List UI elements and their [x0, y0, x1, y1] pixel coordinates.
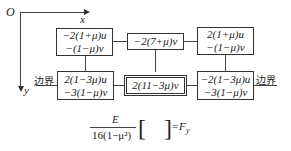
connector-center-vertical: [155, 49, 156, 72]
node-text-line: −(1−μ)v: [65, 42, 103, 55]
node-text-line: 2(1−3μ)u: [64, 73, 106, 86]
bracket-close: ]: [164, 115, 172, 141]
connector-left-vertical: [85, 55, 86, 72]
node-text-line: 2(11−3μ)v: [132, 79, 178, 92]
x-axis: [20, 12, 86, 13]
formula: E 16(1−μ²) [ ] = F y: [90, 113, 200, 149]
node-top-center: −2(7+μ)v: [127, 33, 184, 50]
node-top-right: 2(1+μ)u −(1−μ)v: [197, 27, 254, 55]
formula-result: F: [179, 120, 186, 132]
node-text-line: −(1−μ)v: [206, 41, 244, 54]
node-text-line: 2(1+μ)u: [207, 28, 244, 41]
origin-label: O: [6, 5, 15, 20]
node-top-left: −2(1+μ)u −(1−μ)v: [56, 28, 113, 56]
y-axis: [20, 12, 21, 88]
formula-numerator: E: [112, 113, 119, 125]
x-axis-label: x: [80, 13, 85, 25]
formula-denominator: 16(1−μ²): [92, 129, 131, 141]
formula-equals: =: [172, 120, 178, 132]
node-bottom-center-highlighted: 2(11−3μ)v: [124, 75, 187, 96]
y-axis-label: y: [24, 84, 29, 96]
node-bottom-right: −2(1−3μ)u −3(1−μ)v: [197, 71, 254, 100]
node-text-line: −2(1+μ)u: [62, 29, 106, 42]
node-text-line: −2(1−3μ)u: [201, 73, 251, 86]
node-text-line: −2(7+μ)v: [134, 35, 178, 48]
bracket-open: [: [138, 115, 146, 141]
boundary-label-left: 边界: [34, 73, 54, 88]
boundary-label-right: 边界: [256, 72, 276, 87]
node-bottom-left: 2(1−3μ)u −3(1−μ)v: [57, 71, 114, 100]
connector-right-vertical: [225, 55, 226, 72]
connector-top-center-right: [183, 41, 198, 42]
node-text-line: −3(1−μ)v: [64, 86, 108, 99]
fraction-bar: [90, 127, 136, 128]
y-axis-arrow-icon: [18, 86, 24, 92]
node-text-line: −3(1−μ)v: [204, 86, 248, 99]
formula-result-subscript: y: [186, 126, 190, 135]
